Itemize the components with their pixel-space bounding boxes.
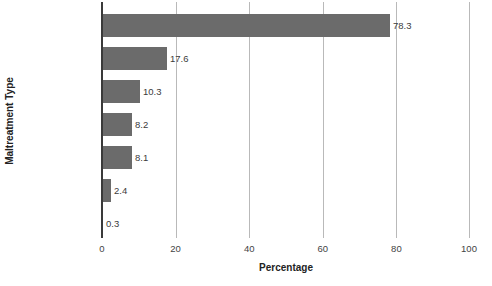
bar-physical-abuse <box>102 47 167 70</box>
value-label-physical-abuse: 17.6 <box>170 53 189 64</box>
xtick-label-100: 100 <box>461 243 477 254</box>
value-label-medical-neglect: 2.4 <box>114 185 127 196</box>
y-axis-line <box>101 2 103 238</box>
xtick-label-0: 0 <box>99 243 104 254</box>
bar-other <box>102 80 140 103</box>
xtick-label-40: 40 <box>244 243 255 254</box>
value-label-other: 10.3 <box>143 86 162 97</box>
value-label-unknown: 0.3 <box>106 218 119 229</box>
gridline-40 <box>249 2 250 238</box>
y-axis-title: Maltreatment Type <box>2 2 16 240</box>
value-label-sexual-abuse: 8.2 <box>135 119 148 130</box>
plot-area: 78.3 17.6 10.3 8.2 8.1 2.4 0.3 0 20 40 6… <box>102 2 470 238</box>
xtick-label-60: 60 <box>318 243 329 254</box>
gridline-80 <box>396 2 397 238</box>
bar-psychological-maltreatment <box>102 146 132 169</box>
x-axis-title: Percentage <box>102 262 470 273</box>
value-label-neglect: 78.3 <box>393 20 412 31</box>
bar-medical-neglect <box>102 179 111 202</box>
xtick-label-80: 80 <box>391 243 402 254</box>
bar-sexual-abuse <box>102 113 132 136</box>
gridline-60 <box>323 2 324 238</box>
bar-chart-figure: Maltreatment Type 78.3 17.6 10.3 8.2 8.1… <box>0 0 492 286</box>
bar-neglect <box>102 14 390 37</box>
gridline-20 <box>176 2 177 238</box>
gridline-100 <box>469 2 470 238</box>
value-label-psychological-maltreatment: 8.1 <box>135 152 148 163</box>
xtick-label-20: 20 <box>170 243 181 254</box>
